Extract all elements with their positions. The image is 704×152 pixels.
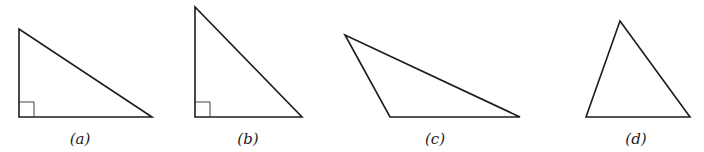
triangle-a-group: (a) — [19, 29, 152, 148]
triangle-b — [195, 7, 302, 117]
triangle-b-group: (b) — [195, 7, 302, 148]
right-angle-marker-a — [19, 102, 34, 117]
triangle-d-label: (d) — [625, 130, 646, 148]
triangle-c-group: (c) — [345, 35, 520, 148]
triangles-figure: (a) (b) (c) (d) — [0, 0, 704, 152]
triangle-a-label: (a) — [70, 130, 91, 148]
right-angle-marker-b — [195, 102, 210, 117]
triangle-c-label: (c) — [425, 130, 445, 148]
triangle-d-group: (d) — [586, 21, 690, 148]
triangle-c — [345, 35, 520, 117]
triangle-a — [19, 29, 152, 117]
triangle-b-label: (b) — [237, 130, 258, 148]
triangle-d — [586, 21, 690, 117]
